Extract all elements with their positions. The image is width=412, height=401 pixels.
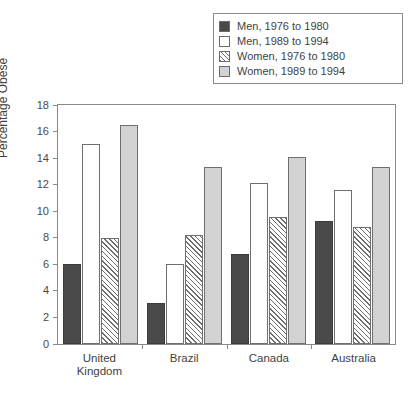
y-axis-tick-label: 14 bbox=[37, 153, 49, 164]
y-axis-tick-label: 10 bbox=[37, 206, 49, 217]
x-axis-category-label-line: Kingdom bbox=[57, 365, 142, 378]
x-axis-category-label-line: Brazil bbox=[142, 352, 227, 365]
x-axis-labels: UnitedKingdomBrazilCanadaAustralia bbox=[57, 352, 396, 378]
x-axis-separator-tick bbox=[227, 344, 228, 349]
bar[interactable] bbox=[63, 264, 81, 344]
bar[interactable] bbox=[353, 227, 371, 344]
chart-legend: Men, 1976 to 1980 Men, 1989 to 1994 Wome… bbox=[213, 13, 403, 84]
x-axis-separator-tick bbox=[142, 344, 143, 349]
x-axis-category-label: UnitedKingdom bbox=[57, 352, 142, 378]
solid-light-square-icon bbox=[219, 66, 230, 77]
x-axis-category-label: Australia bbox=[311, 352, 396, 378]
open-white-square-icon bbox=[219, 36, 230, 47]
bar[interactable] bbox=[166, 264, 184, 344]
figure-caption bbox=[8, 393, 408, 401]
y-axis-tick-label: 4 bbox=[43, 285, 49, 296]
bar[interactable] bbox=[82, 144, 100, 344]
bar[interactable] bbox=[101, 238, 119, 344]
hatched-square-icon bbox=[219, 51, 230, 62]
x-axis-category-label-line: Australia bbox=[311, 352, 396, 365]
bar[interactable] bbox=[204, 167, 222, 344]
x-axis-category-label-line: Canada bbox=[227, 352, 312, 365]
legend-item-label: Men, 1989 to 1994 bbox=[237, 35, 329, 47]
x-axis-category-label-line: United bbox=[57, 352, 142, 365]
bar[interactable] bbox=[288, 157, 306, 344]
y-axis-tick-label: 8 bbox=[43, 232, 49, 243]
bar[interactable] bbox=[185, 235, 203, 344]
bar[interactable] bbox=[231, 254, 249, 344]
y-axis-tick-label: 18 bbox=[37, 100, 49, 111]
bar[interactable] bbox=[334, 190, 352, 344]
bar[interactable] bbox=[315, 221, 333, 344]
bar[interactable] bbox=[372, 167, 390, 344]
bar-group bbox=[311, 105, 395, 344]
bar[interactable] bbox=[147, 303, 165, 344]
legend-item-men-1976-1980: Men, 1976 to 1980 bbox=[219, 19, 397, 33]
bar-group bbox=[227, 105, 311, 344]
plot-area: 024681012141618 bbox=[57, 104, 396, 345]
y-axis-tick-label: 12 bbox=[37, 179, 49, 190]
bar[interactable] bbox=[250, 183, 268, 344]
bar-groups bbox=[58, 105, 395, 344]
y-axis-tick-label: 0 bbox=[43, 339, 49, 350]
solid-dark-square-icon bbox=[219, 21, 230, 32]
bar[interactable] bbox=[120, 125, 138, 344]
y-axis-label: Percentage Obese bbox=[0, 58, 10, 158]
legend-item-label: Women, 1989 to 1994 bbox=[237, 65, 345, 77]
y-axis-tick-label: 2 bbox=[43, 312, 49, 323]
x-axis-separator-tick bbox=[311, 344, 312, 349]
legend-item-women-1989-1994: Women, 1989 to 1994 bbox=[219, 64, 397, 78]
y-axis-tick-label: 16 bbox=[37, 126, 49, 137]
bar-group bbox=[142, 105, 226, 344]
legend-item-label: Women, 1976 to 1980 bbox=[237, 50, 345, 62]
y-axis-tick-label: 6 bbox=[43, 259, 49, 270]
legend-item-men-1989-1994: Men, 1989 to 1994 bbox=[219, 34, 397, 48]
legend-item-label: Men, 1976 to 1980 bbox=[237, 20, 329, 32]
x-axis-category-label: Brazil bbox=[142, 352, 227, 378]
bar-group bbox=[58, 105, 142, 344]
obesity-bar-chart-figure: Men, 1976 to 1980 Men, 1989 to 1994 Wome… bbox=[0, 0, 412, 401]
bar[interactable] bbox=[269, 217, 287, 344]
legend-item-women-1976-1980: Women, 1976 to 1980 bbox=[219, 49, 397, 63]
x-axis-category-label: Canada bbox=[227, 352, 312, 378]
